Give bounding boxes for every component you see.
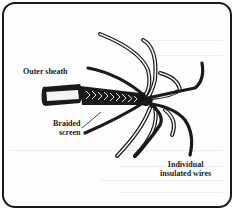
label-braided-line1: Braided: [53, 119, 81, 128]
label-braided-line2: screen: [53, 128, 81, 137]
cable-illustration: [0, 0, 233, 210]
label-outer-sheath: Outer sheath: [23, 67, 68, 76]
label-wires-line2: insulated wires: [160, 169, 211, 178]
label-braided-screen: Braided screen: [53, 119, 81, 137]
label-insulated-wires: Individual insulated wires: [160, 160, 211, 178]
outer-sheath-graphic: [42, 84, 85, 106]
label-wires-line1: Individual: [160, 160, 211, 169]
